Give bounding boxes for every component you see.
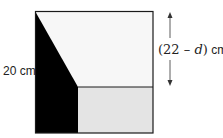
square-diagram: 20 cm (22 – d) cm bbox=[0, 0, 223, 138]
side-length-label: 20 cm bbox=[3, 64, 36, 78]
bottom-right-region bbox=[78, 87, 153, 133]
height-expression-label: (22 – d) cm bbox=[158, 42, 223, 57]
